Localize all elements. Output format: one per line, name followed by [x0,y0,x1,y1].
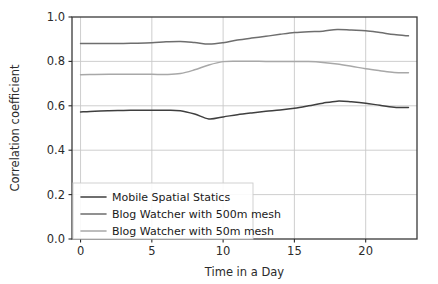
legend-label-1: Blog Watcher with 500m mesh [112,208,281,221]
y-tick-label: 0.0 [47,232,65,246]
x-tick-label: 0 [77,244,84,258]
x-tick-label: 15 [287,244,302,258]
x-tick-label: 5 [148,244,155,258]
x-tick-label: 10 [216,244,231,258]
x-axis-title: Time in a Day [204,265,285,279]
y-tick-label: 0.6 [47,99,65,113]
y-tick-label: 0.8 [47,54,65,68]
y-tick-label: 0.4 [47,143,65,157]
line-chart: 05101520 0.00.20.40.60.81.0 Time in a Da… [0,0,438,284]
legend-label-0: Mobile Spatial Statics [112,191,230,204]
chart-legend[interactable]: Mobile Spatial StaticsBlog Watcher with … [73,183,281,239]
x-tick-label: 20 [358,244,373,258]
legend-label-2: Blog Watcher with 50m mesh [112,225,274,238]
y-tick-label: 0.2 [47,188,65,202]
y-tick-label: 1.0 [47,10,65,24]
chart-figure: 05101520 0.00.20.40.60.81.0 Time in a Da… [0,0,438,284]
y-axis-title: Correlation coefficient [8,64,22,192]
